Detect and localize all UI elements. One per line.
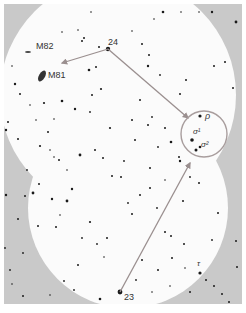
label-star-23: 23 [124,293,134,302]
star-icon [83,37,85,39]
star-icon [120,176,122,178]
star-icon [159,74,161,76]
star-icon [211,11,213,13]
star-icon [9,269,11,271]
star-icon [77,264,79,266]
star-icon [89,221,91,223]
star-icon [198,182,200,184]
star-icon [17,138,19,140]
label-rho: ρ [205,112,210,121]
star-icon [213,285,215,287]
star-icon [7,121,9,123]
star-icon [213,65,215,67]
star-icon [53,118,55,120]
star-icon [103,256,105,258]
star-icon [39,145,41,147]
star-icon [189,176,191,178]
star-icon [66,200,69,203]
star-icon [221,293,223,295]
star-icon [22,295,24,297]
label-tau: τ [197,260,200,268]
star-icon [74,108,76,110]
star-icon [71,188,73,190]
star-icon [111,175,113,177]
label-m82: M82 [36,42,54,51]
star-icon [151,116,153,118]
star-icon [148,54,150,56]
star-icon [35,119,37,121]
star-icon [91,94,93,96]
star-icon [149,187,151,189]
star-icon [180,11,182,13]
star-icon [88,69,91,72]
star-icon [162,11,165,14]
star-icon [147,65,149,67]
label-sigma1: σ¹ [193,128,201,136]
star-icon [205,279,207,281]
star-icon [169,285,171,287]
star-icon [170,235,172,237]
star-icon [14,83,16,85]
star-icon [235,240,237,242]
star-icon [53,156,55,158]
star-icon [19,93,21,95]
star-icon [24,195,26,197]
star-icon [5,129,7,131]
star-icon [134,139,136,141]
star-icon [63,280,65,282]
star-icon [184,267,186,269]
star-icon [198,11,200,13]
star-icon [211,239,213,241]
star-icon [49,149,51,151]
star-icon [90,11,92,13]
star-icon [99,298,102,301]
star-icon [171,257,173,259]
star-icon [156,207,158,209]
star-icon [81,237,83,239]
star-icon [141,259,143,261]
star-icon [170,141,173,144]
star-icon [147,124,149,126]
star-icon [100,88,102,90]
star-icon [59,214,61,216]
star-icon [164,179,166,181]
star-icon [157,146,159,148]
star-icon [164,127,166,129]
star-icon [96,243,98,245]
star-icon [109,127,111,129]
star-icon [183,243,185,245]
star-icon [22,252,24,254]
star-icon [198,271,201,274]
star-icon [190,138,194,142]
star-icon [51,198,53,200]
star-icon [106,237,108,239]
star-icon [164,231,166,233]
star-icon [49,294,51,296]
star-icon [73,289,75,291]
star-icon [139,194,141,196]
star-icon [81,40,83,42]
star-icon [236,266,238,268]
star-icon [179,160,181,162]
star-icon [102,157,104,159]
star-icon [43,102,45,104]
star-icon [89,111,91,113]
star-icon [32,192,35,195]
star-icon [38,183,40,185]
star-icon [224,61,226,63]
label-star-24: 24 [108,38,118,47]
star-icon [141,43,143,45]
star-icon [95,66,97,68]
star-icon [29,104,31,106]
star-icon [66,169,68,171]
star-icon [131,30,133,32]
galaxy-m82-icon[interactable] [25,51,31,53]
star-icon [4,247,6,249]
star-icon [185,79,187,81]
star-icon [198,114,201,117]
star-icon [228,301,230,303]
star-icon [157,269,159,271]
star-icon [178,156,180,158]
star-icon [47,131,49,133]
label-m81: M81 [48,71,66,80]
